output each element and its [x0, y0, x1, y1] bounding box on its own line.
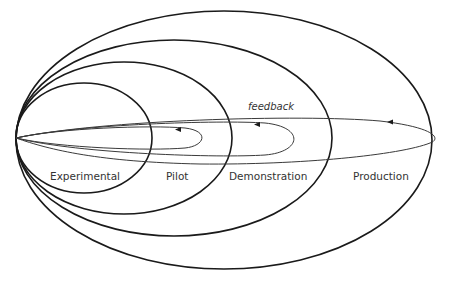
stage-ellipse-pilot [16, 62, 232, 214]
feedback-label: feedback [248, 101, 295, 112]
stage-label-experimental: Experimental [50, 170, 120, 182]
stage-label-pilot: Pilot [166, 170, 188, 182]
stage-label-demonstration: Demonstration [229, 170, 307, 182]
stage-label-production: Production [353, 170, 409, 182]
stage-ellipse-demonstration [16, 40, 332, 236]
feedback-loop-1 [16, 127, 202, 149]
innovation-stages-diagram: feedback Experimental Pilot Demonstratio… [0, 0, 449, 282]
feedback-loop-3 [16, 118, 435, 164]
feedback-arrow-icon [387, 120, 393, 125]
